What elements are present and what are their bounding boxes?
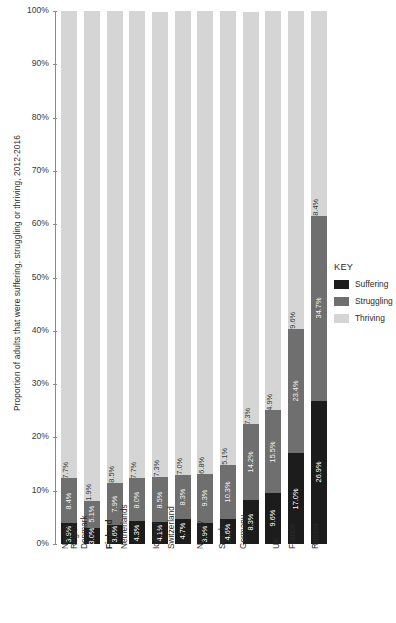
x-axis-category-label: Norway — [196, 521, 205, 549]
legend-swatch-icon — [334, 297, 349, 306]
x-axis-category-label-line: Russia — [310, 524, 320, 549]
legend-item-suffering[interactable]: Suffering — [334, 279, 396, 289]
bar-segment-struggling[interactable]: 8.4% — [61, 478, 77, 523]
x-axis-category-russia[interactable]: Russia — [311, 549, 327, 623]
bar-segment-thriving[interactable]: 91.9% — [84, 11, 100, 501]
bar-segment-struggling[interactable]: 8.0% — [129, 478, 145, 521]
bar-segment-thriving[interactable]: 86.8% — [197, 11, 213, 474]
y-axis-tick-mark — [53, 64, 57, 65]
bar-column[interactable]: 4.1%8.5%87.3% — [152, 11, 168, 544]
y-axis-tick-mark — [53, 437, 57, 438]
bar-column[interactable]: 4.6%10.3%85.1% — [220, 11, 236, 544]
y-axis-tick-label: 20% — [32, 431, 49, 441]
legend-swatch-icon — [334, 280, 349, 289]
bar-segment-suffering[interactable]: 26.9% — [311, 401, 327, 544]
bar-segment-struggling[interactable]: 14.2% — [243, 424, 259, 500]
bar-column[interactable]: 17.0%23.4%59.6% — [288, 11, 304, 544]
x-axis-category-germany[interactable]: Germany — [243, 549, 259, 623]
x-axis-category-denmark[interactable]: Denmark — [84, 549, 100, 623]
bar-segment-thriving[interactable]: 74.9% — [265, 11, 281, 410]
x-axis-category-label-line: France — [287, 523, 297, 549]
bar-column[interactable]: 3.9%8.4%87.7% — [61, 11, 77, 544]
x-axis-category-uk[interactable]: UK — [265, 549, 281, 623]
x-axis-category-label: Germany — [239, 515, 248, 549]
legend-item-struggling[interactable]: Struggling — [334, 296, 396, 306]
bar-segment-struggling[interactable]: 34.7% — [311, 216, 327, 401]
y-axis-tick-label: 50% — [32, 272, 49, 282]
x-axis-category-label-line: Iceland — [151, 522, 161, 549]
bar-segment-value-label: 87.3% — [153, 460, 160, 476]
x-axis-category-label: Denmark — [80, 515, 89, 549]
bar-segment-suffering[interactable]: 4.7% — [175, 519, 191, 544]
bar-segment-value-label: 9.6% — [270, 510, 277, 527]
bar-segment-value-label: 3.0% — [88, 528, 95, 544]
x-axis-category-label-line: Finland — [104, 520, 114, 550]
bar-segment-struggling[interactable]: 8.3% — [175, 475, 191, 519]
bar-segment-value-label: 26.9% — [315, 462, 322, 483]
bar-segment-value-label: 15.5% — [270, 441, 277, 462]
x-axis-category-label: Russia — [311, 524, 320, 549]
bar-segment-value-label: 10.3% — [224, 482, 231, 503]
bar-segment-value-label: 38.4% — [311, 199, 318, 215]
y-axis-tick-label: 100% — [27, 5, 49, 15]
bar-segment-thriving[interactable]: 38.4% — [311, 11, 327, 216]
legend-item-thriving[interactable]: Thriving — [334, 313, 396, 323]
x-axis-category-france[interactable]: France — [288, 549, 304, 623]
bar-segment-struggling[interactable]: 15.5% — [265, 410, 281, 493]
y-axis-tick-label: 90% — [32, 58, 49, 68]
bar-segment-value-label: 8.3% — [179, 488, 186, 505]
bar-column[interactable]: 26.9%34.7%38.4% — [311, 11, 327, 544]
bar-segment-value-label: 9.3% — [202, 490, 209, 507]
x-axis-category-label: Iceland — [152, 522, 161, 549]
bar-column[interactable]: 3.0%5.1%91.9% — [84, 11, 100, 544]
bar-column[interactable]: 9.6%15.5%74.9% — [265, 11, 281, 544]
bar-segment-value-label: 4.3% — [134, 524, 141, 541]
x-axis-category-sweden[interactable]: Sweden — [220, 549, 236, 623]
stacked-bar-chart: Proportion of adults that were suffering… — [0, 0, 396, 623]
x-axis-category-label: France — [288, 523, 297, 549]
bar-segment-value-label: 77.3% — [243, 408, 250, 424]
bar-segment-value-label: 87.0% — [175, 458, 182, 474]
x-axis-category-iceland[interactable]: Iceland — [152, 549, 168, 623]
bar-segment-struggling[interactable]: 10.3% — [220, 465, 236, 520]
bar-column[interactable]: 4.7%8.3%87.0% — [175, 11, 191, 544]
bar-segment-struggling[interactable]: 9.3% — [197, 474, 213, 524]
x-axis-category-label: Switzerland — [166, 506, 175, 549]
bar-segment-value-label: 59.6% — [289, 312, 296, 328]
bar-segment-thriving[interactable]: 87.7% — [61, 11, 77, 478]
x-axis-category-finland[interactable]: Finland — [107, 549, 123, 623]
y-axis-tick-label: 0% — [37, 538, 49, 548]
y-axis-tick-label: 40% — [32, 325, 49, 335]
x-axis-category-netherlands[interactable]: Netherlands — [129, 549, 145, 623]
legend-item-label: Suffering — [355, 279, 388, 289]
bar-column[interactable]: 4.3%8.0%87.7% — [129, 11, 145, 544]
bar-segment-thriving[interactable]: 87.3% — [152, 12, 168, 477]
bar-segment-value-label: 14.2% — [247, 451, 254, 472]
y-axis-tick-label: 60% — [32, 218, 49, 228]
x-axis-category-nordic-region[interactable]: NordicRegion — [61, 549, 77, 623]
bar-segment-thriving[interactable]: 77.3% — [243, 12, 259, 424]
bar-segment-thriving[interactable]: 87.0% — [175, 11, 191, 475]
bar-segment-suffering[interactable]: 4.3% — [129, 521, 145, 544]
y-axis-tick-mark — [53, 278, 57, 279]
bar-segment-thriving[interactable]: 59.6% — [288, 11, 304, 329]
x-axis-category-label: NordicRegion — [61, 523, 79, 549]
legend-item-label: Struggling — [355, 296, 393, 306]
x-axis-category-label-line: Region — [70, 523, 79, 549]
x-axis-category-norway[interactable]: Norway — [197, 549, 213, 623]
x-axis-category-switzerland[interactable]: Switzerland — [175, 549, 191, 623]
bar-column[interactable]: 3.6%7.9%88.5% — [107, 11, 123, 544]
bar-segment-thriving[interactable]: 85.1% — [220, 11, 236, 465]
bar-segment-value-label: 87.7% — [130, 462, 137, 478]
bar-segment-value-label: 7.9% — [111, 495, 118, 512]
bar-column[interactable]: 8.3%14.2%77.3% — [243, 11, 259, 544]
y-axis-tick-mark — [53, 544, 57, 545]
bar-column[interactable]: 3.9%9.3%86.8% — [197, 11, 213, 544]
bar-segment-thriving[interactable]: 88.5% — [107, 11, 123, 483]
y-axis-tick-mark — [53, 331, 57, 332]
x-axis-category-label-line: UK — [272, 537, 282, 549]
bar-segment-value-label: 91.9% — [85, 484, 92, 500]
y-axis-tick-label: 10% — [32, 485, 49, 495]
bar-segment-thriving[interactable]: 87.7% — [129, 11, 145, 478]
bar-segment-struggling[interactable]: 23.4% — [288, 329, 304, 454]
